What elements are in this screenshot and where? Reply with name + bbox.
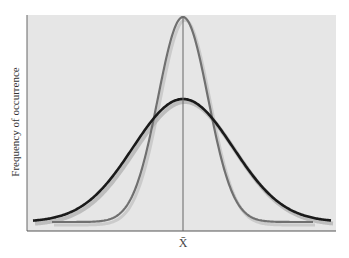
plot-background bbox=[27, 15, 336, 231]
chart: Frequency of occurrence X̄ bbox=[0, 0, 349, 258]
x-axis-label-mean: X̄ bbox=[179, 236, 188, 250]
y-axis-label: Frequency of occurrence bbox=[9, 67, 21, 176]
